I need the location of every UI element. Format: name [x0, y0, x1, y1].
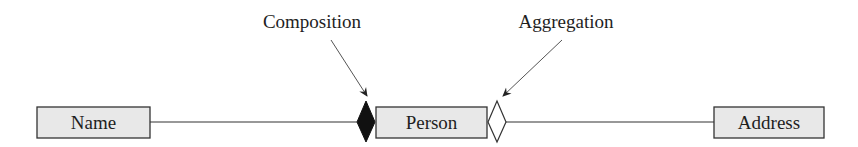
class-name-label: Name [71, 112, 116, 133]
filled-diamond-icon [357, 101, 375, 142]
composition-annotation: Composition [263, 11, 362, 32]
class-name[interactable]: Name [37, 107, 150, 138]
hollow-diamond-icon [488, 101, 506, 142]
class-address[interactable]: Address [714, 107, 824, 138]
uml-diagram: Name Person Address Composition Aggregat… [0, 0, 858, 147]
composition-arrow-icon [331, 40, 367, 96]
aggregation-annotation: Aggregation [519, 11, 614, 32]
class-person[interactable]: Person [376, 107, 487, 138]
class-person-label: Person [406, 112, 458, 133]
class-address-label: Address [738, 112, 800, 133]
aggregation-arrow-icon [503, 40, 562, 96]
